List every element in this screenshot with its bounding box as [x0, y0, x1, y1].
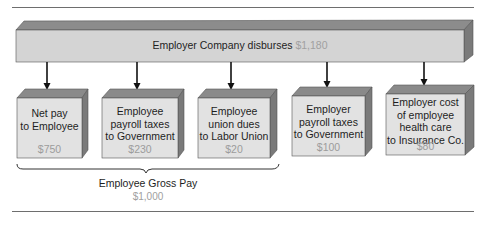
box-amount-net-pay: $750 — [17, 143, 82, 155]
gross-pay-amount: $1,000 — [48, 191, 248, 202]
box-amount-employee-payroll-taxes: $230 — [102, 143, 178, 155]
source-label: Employer Company disburses $1,180 — [16, 39, 464, 51]
box-amount-employer-payroll-taxes: $100 — [292, 141, 365, 153]
arrow-down-icon — [44, 62, 51, 90]
gross-pay-label: Employee Gross Pay — [48, 177, 248, 189]
source-text: Employer Company disburses — [152, 39, 292, 51]
arrow-down-icon — [324, 62, 331, 88]
box-label-employer-payroll-taxes: Employer payroll taxes to Government — [290, 103, 367, 141]
gross-pay-brace — [17, 164, 279, 173]
source-amount: $1,180 — [295, 39, 327, 51]
box-label-net-pay: Net pay to Employee — [17, 107, 82, 132]
box-label-union-dues: Employee union dues to Labor Union — [198, 105, 270, 143]
box-label-employee-payroll-taxes: Employee payroll taxes to Government — [102, 105, 178, 143]
box-label-health-care: Employer cost of employee health care to… — [384, 96, 467, 146]
arrow-down-icon — [421, 62, 428, 86]
arrow-down-icon — [228, 62, 235, 90]
arrows — [44, 62, 428, 90]
arrow-down-icon — [134, 62, 141, 90]
box-amount-health-care: $80 — [386, 140, 465, 152]
box-amount-union-dues: $20 — [198, 143, 270, 155]
